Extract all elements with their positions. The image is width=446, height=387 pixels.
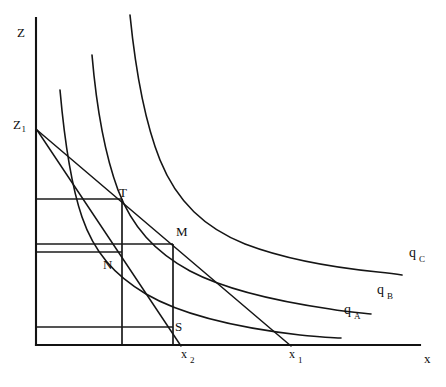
point-label-t: T bbox=[119, 186, 127, 199]
curve-label-q-c-sub: C bbox=[416, 254, 425, 264]
curve-label-q-a-sub: A bbox=[351, 311, 361, 321]
curve-label-q-a-text: q bbox=[344, 302, 351, 317]
indifference-curve-figure: Z x Z1 T N M S x2 x1 qA qB qC bbox=[0, 0, 446, 387]
y-axis-label: Z bbox=[17, 26, 25, 39]
curve-q-c bbox=[130, 15, 402, 275]
budget-line-outer bbox=[37, 130, 291, 346]
guide-lines bbox=[36, 199, 173, 345]
curve-label-q-c-text: q bbox=[409, 245, 416, 260]
point-label-z1-sub: 1 bbox=[21, 124, 26, 134]
point-label-z1: Z1 bbox=[13, 118, 26, 131]
curve-label-q-a: qA bbox=[344, 303, 361, 317]
curve-label-q-b-sub: B bbox=[384, 291, 393, 301]
point-label-n: N bbox=[103, 258, 112, 271]
x-tick-x2-sub: 2 bbox=[187, 355, 195, 365]
point-label-m: M bbox=[176, 225, 188, 238]
x-tick-x1-sub: 1 bbox=[295, 355, 303, 365]
curve-label-q-b-text: q bbox=[377, 282, 384, 297]
point-label-z1-text: Z bbox=[13, 117, 21, 132]
x-tick-label-x1: x1 bbox=[289, 348, 303, 360]
x-axis-label: x bbox=[424, 352, 431, 365]
budget-lines bbox=[37, 130, 291, 346]
curve-label-q-b: qB bbox=[377, 283, 393, 297]
indifference-curves bbox=[60, 15, 402, 338]
curve-label-q-c: qC bbox=[409, 246, 425, 260]
x-tick-label-x2: x2 bbox=[181, 348, 195, 360]
figure-canvas bbox=[0, 0, 446, 387]
point-label-s: S bbox=[175, 320, 182, 333]
